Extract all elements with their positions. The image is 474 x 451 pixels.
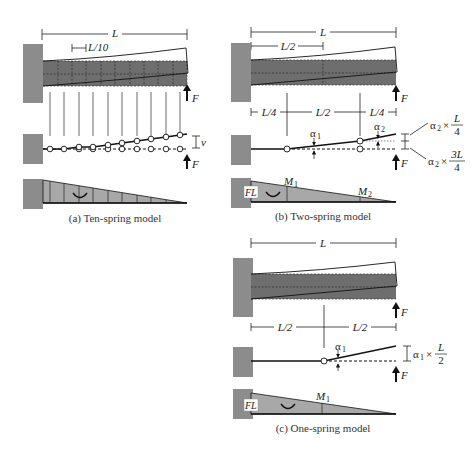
alpha2-marker: α 2 (374, 120, 385, 148)
svg-text:F: F (191, 158, 199, 170)
svg-text:F: F (400, 369, 408, 381)
segment-label: L/10 (87, 41, 109, 53)
deflection-dimension: v (192, 136, 206, 148)
moment-diagram (251, 181, 396, 202)
svg-text:F: F (191, 92, 199, 104)
svg-text:1: 1 (317, 132, 321, 141)
hinge (321, 358, 327, 364)
wall (23, 44, 43, 103)
svg-text:α: α (310, 127, 316, 139)
svg-text:×: × (426, 348, 432, 360)
svg-text:L/2: L/2 (352, 321, 368, 333)
force-arrow-top: F (392, 302, 408, 318)
panel-b-two-spring-model: L L/2 F L/ (231, 26, 465, 223)
svg-text:2: 2 (368, 190, 372, 199)
force-arrow-top: F (183, 84, 199, 104)
svg-text:L: L (319, 26, 326, 38)
panel-c-one-spring-model: L F L/2 L/2 (233, 237, 447, 435)
svg-text:1: 1 (326, 395, 330, 404)
svg-text:L/2: L/2 (277, 321, 293, 333)
svg-text:2: 2 (438, 354, 444, 366)
svg-text:2: 2 (437, 124, 441, 133)
beam (251, 274, 396, 299)
svg-text:1: 1 (420, 353, 424, 362)
svg-text:α: α (335, 340, 341, 352)
caption: (a) Ten-spring model (69, 212, 162, 225)
svg-text:α: α (428, 155, 434, 167)
half-dimensions: L/2 L/2 (251, 305, 396, 348)
svg-text:M: M (315, 390, 326, 402)
panel-a-ten-spring-model: L L/10 (23, 27, 206, 225)
moment-diagram (43, 180, 187, 203)
svg-text:L/4: L/4 (261, 106, 277, 118)
svg-text:2: 2 (381, 125, 385, 134)
svg-text:1: 1 (342, 345, 346, 354)
svg-text:3L: 3L (450, 148, 463, 160)
wall (233, 347, 253, 377)
alpha1-marker: α 1 (335, 340, 346, 371)
svg-text:1: 1 (294, 180, 298, 189)
caption: (b) Two-spring model (275, 210, 371, 223)
tip-displacement-dim (403, 346, 411, 361)
svg-text:L: L (319, 237, 326, 249)
beam (251, 60, 396, 85)
springs (50, 92, 180, 136)
fl-label: FL (244, 400, 257, 411)
segment-dimension: L/10 (72, 41, 109, 53)
force-arrow-top: F (392, 85, 408, 104)
wall (231, 43, 251, 102)
span-dimension: L (251, 26, 396, 38)
svg-text:F: F (400, 157, 408, 169)
fl-label: FL (244, 187, 257, 198)
svg-text:α: α (413, 348, 419, 360)
svg-text:4: 4 (454, 125, 460, 137)
svg-text:v: v (201, 136, 206, 148)
annotation: α 1 × L 2 (413, 341, 447, 366)
annotation-bottom: α 2 × 3L 4 (428, 148, 465, 173)
svg-text:L/2: L/2 (315, 106, 331, 118)
svg-text:M: M (283, 175, 294, 187)
svg-text:×: × (443, 119, 449, 131)
svg-text:α: α (374, 120, 380, 132)
svg-text:L/2: L/2 (280, 40, 296, 52)
caption: (c) One-spring model (276, 422, 371, 435)
span-label: L (111, 27, 118, 39)
wall (231, 135, 251, 165)
half-dimension: L/2 (251, 40, 323, 52)
force-arrow: F (392, 154, 408, 170)
spring-models-diagram: L L/10 (0, 0, 474, 451)
wall (23, 134, 43, 164)
force-arrow: F (183, 154, 199, 170)
svg-text:4: 4 (454, 161, 460, 173)
alpha1-marker: α 1 (310, 127, 321, 159)
annotation-top: α 2 × L 4 (430, 112, 463, 137)
wall (23, 179, 43, 209)
force-arrow: F (392, 366, 408, 382)
deformed-line (251, 134, 396, 149)
span-dimension: L (251, 237, 396, 249)
svg-text:M: M (357, 185, 368, 197)
svg-text:L/4: L/4 (369, 106, 385, 118)
svg-text:F: F (400, 92, 408, 104)
tip-displacement-dims (401, 123, 428, 159)
svg-text:2: 2 (435, 160, 439, 169)
svg-text:L: L (437, 341, 444, 353)
svg-text:α: α (430, 119, 436, 131)
svg-text:L: L (453, 112, 460, 124)
span-dimension: L (42, 27, 187, 40)
svg-text:F: F (400, 306, 408, 318)
svg-text:×: × (441, 155, 447, 167)
wall (233, 258, 253, 317)
